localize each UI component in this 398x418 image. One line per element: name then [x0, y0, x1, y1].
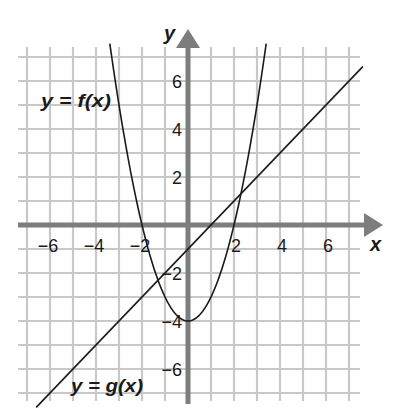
g-function-label: y = g(x) — [70, 376, 143, 396]
coordinate-plane-chart: −6−4−2246642−2−4−6 x y y = f(x) y = g(x) — [0, 0, 398, 418]
x-tick-label: 4 — [277, 236, 287, 256]
x-tick-label: −6 — [38, 236, 59, 256]
y-tick-label: −6 — [161, 360, 182, 380]
x-tick-label: 6 — [323, 236, 333, 256]
y-tick-label: 2 — [172, 168, 182, 188]
y-tick-label: 4 — [172, 120, 182, 140]
f-function-label: y = f(x) — [40, 91, 111, 111]
x-tick-label: 2 — [231, 236, 241, 256]
y-tick-label: −4 — [161, 312, 182, 332]
y-tick-label: 6 — [172, 72, 182, 92]
y-axis-arrow-icon — [176, 29, 200, 48]
x-tick-label: −4 — [84, 236, 105, 256]
y-axis-label: y — [163, 22, 176, 44]
x-axis-label: x — [369, 233, 382, 255]
